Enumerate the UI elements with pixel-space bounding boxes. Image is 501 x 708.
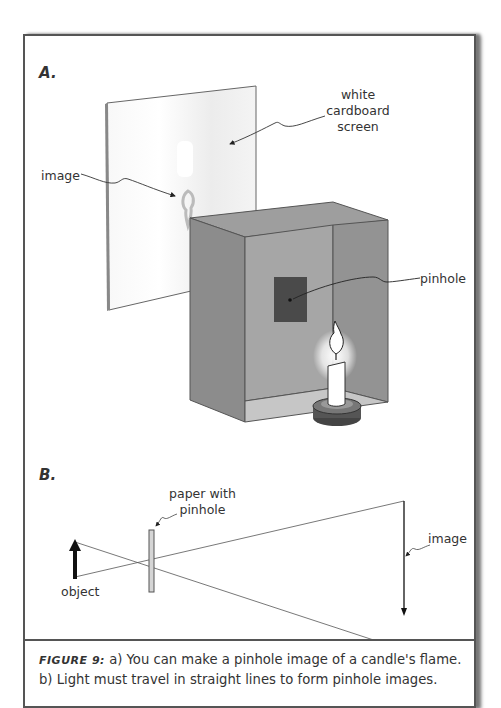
label-pinhole: pinhole (420, 271, 466, 287)
figure-tag: FIGURE 9: (39, 654, 105, 667)
figure-frame: A. B. white cardboard screen image pinho… (23, 34, 476, 708)
panel-b-letter: B. (39, 466, 56, 484)
label-object: object (61, 584, 100, 600)
paper-with-pinhole (149, 530, 154, 592)
caption-line-1: a) You can make a pinhole image of a can… (109, 652, 461, 667)
label-image-a: image (41, 168, 80, 184)
object-arrow (69, 539, 81, 579)
image-b-leader (406, 545, 430, 556)
panel-a-letter: A. (39, 64, 57, 82)
pinhole-box (190, 202, 388, 422)
label-image-b: image (428, 531, 467, 547)
caption-line-2: b) Light must travel in straight lines t… (39, 670, 469, 689)
figure-caption: FIGURE 9: a) You can make a pinhole imag… (39, 650, 469, 689)
label-white-cardboard-screen: white cardboard screen (323, 87, 393, 135)
image-arrow (401, 501, 407, 616)
label-paper-with-pinhole: paper with pinhole (165, 486, 240, 518)
caption-divider (25, 639, 474, 641)
ray-top (75, 542, 404, 639)
figure-illustration (25, 36, 474, 639)
pinhole-dot (288, 298, 292, 302)
